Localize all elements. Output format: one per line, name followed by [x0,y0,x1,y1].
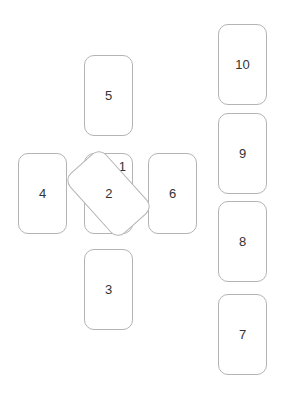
card-position-10: 10 [218,24,267,105]
card-label-10: 10 [219,58,266,72]
card-label-7: 7 [219,328,266,342]
tarot-spread-diagram: 1 5 3 4 6 2 10 9 8 7 [0,0,283,393]
card-position-7: 7 [218,294,267,375]
card-position-6: 6 [148,153,197,234]
card-label-5: 5 [85,89,132,103]
card-position-4: 4 [18,153,67,234]
card-position-8: 8 [218,201,267,282]
card-label-3: 3 [85,283,132,297]
card-position-3: 3 [84,249,133,330]
card-label-4: 4 [19,187,66,201]
card-label-6: 6 [149,187,196,201]
card-label-2: 2 [85,187,132,201]
card-label-9: 9 [219,147,266,161]
card-position-5: 5 [84,55,133,136]
card-label-8: 8 [219,235,266,249]
card-position-2-crossing: 2 [63,147,154,240]
card-position-9: 9 [218,113,267,194]
